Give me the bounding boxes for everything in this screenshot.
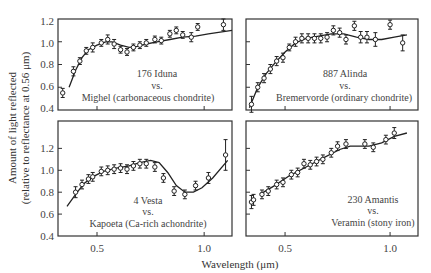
- data-point: [138, 42, 142, 49]
- asteroid-marker: [335, 144, 339, 148]
- asteroid-marker: [365, 35, 369, 39]
- asteroid-marker: [308, 163, 312, 167]
- data-point: [86, 175, 90, 184]
- ytick-label: 0.8: [40, 186, 54, 198]
- asteroid-marker: [99, 169, 103, 173]
- asteroid-marker: [131, 164, 135, 168]
- asteroid-marker: [118, 166, 122, 170]
- asteroid-marker: [138, 162, 142, 166]
- data-point: [196, 24, 200, 31]
- asteroid-marker: [221, 22, 225, 26]
- ytick-label: 0.6: [40, 80, 54, 92]
- data-point: [308, 160, 312, 169]
- data-point: [159, 37, 163, 44]
- y-ticks-top: 1.2 1.0 0.8 0.6 0.4: [40, 15, 54, 114]
- asteroid-marker: [106, 37, 110, 41]
- data-point: [321, 155, 325, 164]
- data-point: [384, 135, 388, 144]
- asteroid-marker: [295, 170, 299, 174]
- asteroid-marker: [268, 67, 272, 71]
- asteroid-marker: [183, 192, 187, 196]
- asteroid-marker: [78, 59, 82, 63]
- asteroid-marker: [138, 43, 142, 47]
- asteroid-marker: [196, 25, 200, 29]
- x-axis-title: Wavelength (μm): [202, 258, 279, 271]
- asteroid-marker: [329, 151, 333, 155]
- asteroid-marker: [168, 32, 172, 36]
- ytick-label: 0.4: [40, 102, 54, 114]
- data-point: [289, 170, 293, 179]
- y-ticks-bottom: 1.2 1.0 0.8 0.6 0.4: [40, 142, 54, 242]
- asteroid-marker: [99, 41, 103, 45]
- data-point: [131, 44, 135, 51]
- asteroid-marker: [260, 192, 264, 196]
- data-point: [168, 30, 172, 37]
- asteroid-marker: [300, 36, 304, 40]
- data-point: [99, 39, 103, 46]
- asteroid-marker: [106, 168, 110, 172]
- data-point: [91, 43, 95, 52]
- asteroid-marker: [189, 35, 193, 39]
- spectra-figure: Amount of light reflected (relative to r…: [0, 0, 431, 273]
- xtick-label: 0.5: [278, 242, 292, 254]
- data-point: [274, 180, 278, 189]
- data-point: [281, 53, 285, 62]
- data-point: [274, 57, 278, 66]
- asteroid-marker: [249, 102, 253, 106]
- data-point: [118, 46, 122, 53]
- asteroid-marker: [251, 198, 255, 202]
- asteroid-marker: [400, 41, 404, 45]
- asteroid-marker: [153, 165, 157, 169]
- asteroid-marker: [289, 172, 293, 176]
- ytick-label: 1.2: [40, 142, 54, 154]
- panel-meteorite-name: Kapoeta (Ca-rich achondrite): [89, 218, 206, 230]
- asteroid-marker: [312, 36, 316, 40]
- asteroid-marker: [281, 55, 285, 59]
- data-point: [161, 174, 165, 183]
- y-axis-title-line1: Amount of light reflected: [6, 71, 18, 184]
- data-point: [172, 187, 176, 196]
- panel-vs: vs.: [142, 206, 153, 217]
- asteroid-marker: [331, 28, 335, 32]
- asteroid-marker: [144, 41, 148, 45]
- asteroid-marker: [337, 30, 341, 34]
- asteroid-marker: [287, 45, 291, 49]
- ytick-label: 1.0: [40, 37, 54, 49]
- data-point: [373, 33, 377, 47]
- asteroid-marker: [112, 42, 116, 46]
- panel-vs: vs.: [339, 80, 350, 91]
- asteroid-marker: [392, 131, 396, 135]
- data-point: [337, 28, 341, 37]
- panel-vs: vs.: [151, 80, 162, 91]
- asteroid-marker: [256, 85, 260, 89]
- panel-meteorite-name: Veramin (stony iron): [331, 217, 414, 229]
- data-point: [144, 39, 148, 46]
- data-point: [363, 140, 367, 149]
- asteroid-marker: [306, 36, 310, 40]
- data-point: [189, 33, 193, 42]
- panel-230-amantis: 230 Amantis vs. Veramin (stony iron): [246, 121, 418, 236]
- data-point: [99, 167, 103, 176]
- asteroid-marker: [358, 35, 362, 39]
- ytick-label: 0.8: [40, 58, 54, 70]
- data-point: [71, 67, 75, 76]
- asteroid-marker: [71, 69, 75, 73]
- data-point: [112, 39, 116, 48]
- xtick-label: 1.0: [383, 242, 397, 254]
- panel-887-alinda: 887 Alinda vs. Bremervorde (ordinary cho…: [246, 19, 418, 112]
- asteroid-marker: [223, 153, 227, 157]
- panel-176-iduna: 176 Iduna vs. Mighel (carbonaceous chond…: [58, 19, 232, 110]
- asteroid-marker: [161, 176, 165, 180]
- data-point: [352, 21, 356, 30]
- data-point: [312, 34, 316, 43]
- data-point: [206, 172, 210, 183]
- asteroid-marker: [371, 145, 375, 149]
- panel-asteroid-name: 230 Amantis: [348, 194, 399, 205]
- asteroid-marker: [91, 45, 95, 49]
- data-point: [61, 88, 65, 97]
- asteroid-marker: [159, 38, 163, 42]
- data-point: [260, 190, 264, 199]
- asteroid-marker: [125, 167, 129, 171]
- asteroid-marker: [344, 37, 348, 41]
- asteroid-marker: [118, 48, 122, 52]
